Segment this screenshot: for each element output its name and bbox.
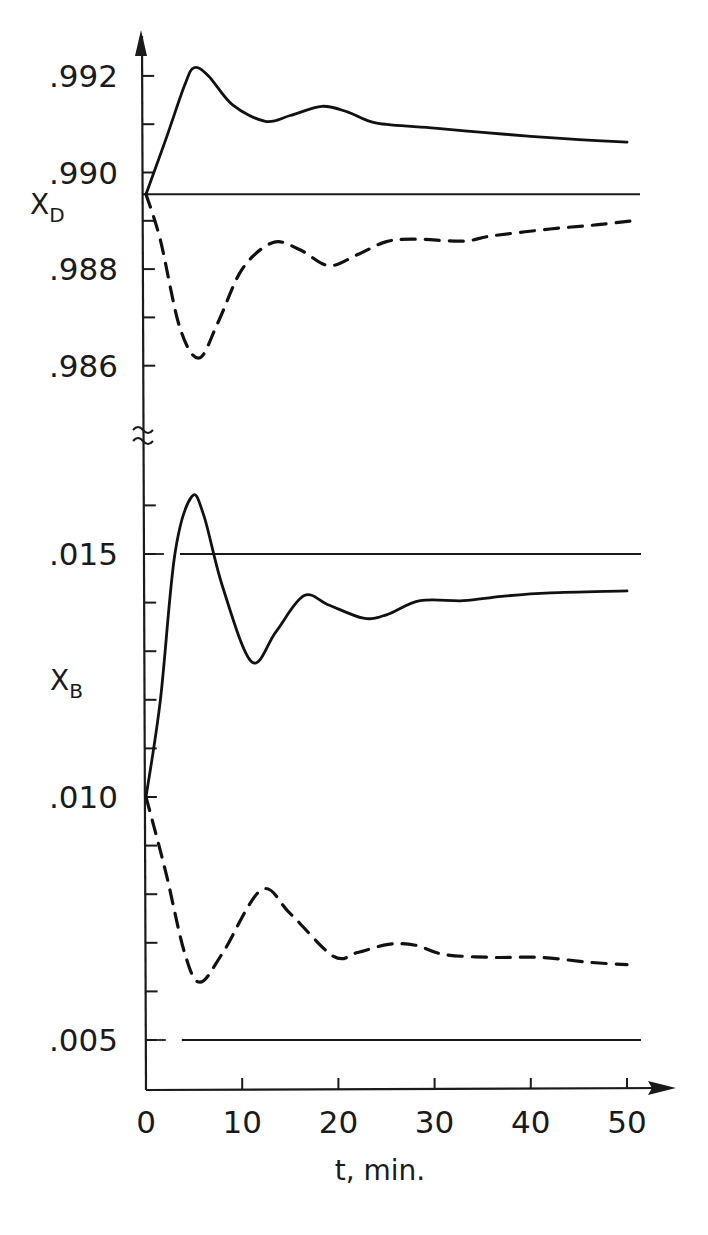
x-tick-label: 40 [511, 1104, 550, 1140]
x-tick-label: 30 [415, 1104, 454, 1140]
x-tick-label: 10 [222, 1104, 261, 1140]
ticks: 01020304050.986.988.990.992.005.010.015 [49, 58, 647, 1140]
x-axis-title: t, min. [335, 1154, 425, 1187]
x-tick-label: 0 [136, 1104, 156, 1140]
lower-y-axis-title: XB [50, 664, 83, 703]
x-tick-label: 20 [319, 1104, 358, 1140]
x-axis-line [146, 1088, 668, 1090]
x-axis-arrowhead [648, 1081, 676, 1095]
upper-y-axis-title: XD [30, 188, 65, 227]
y-tick-label: .986 [49, 348, 118, 384]
y-tick-label: .990 [49, 155, 118, 191]
y-axis-arrowhead [135, 30, 147, 56]
y-tick-label: .005 [49, 1022, 118, 1058]
upper-response-solid-line [146, 67, 627, 194]
step-response-chart: 01020304050.986.988.990.992.005.010.015 … [0, 0, 708, 1235]
lower-response-dashed-line [146, 797, 627, 982]
y-tick-label: .992 [49, 58, 118, 94]
y-tick-label: .988 [49, 251, 118, 287]
lower-response-solid-line [146, 495, 627, 797]
y-tick-label: .010 [49, 779, 118, 815]
x-tick-label: 50 [607, 1104, 646, 1140]
upper-response-dashed-line [146, 194, 637, 358]
y-tick-label: .015 [49, 536, 118, 572]
series [146, 67, 637, 982]
